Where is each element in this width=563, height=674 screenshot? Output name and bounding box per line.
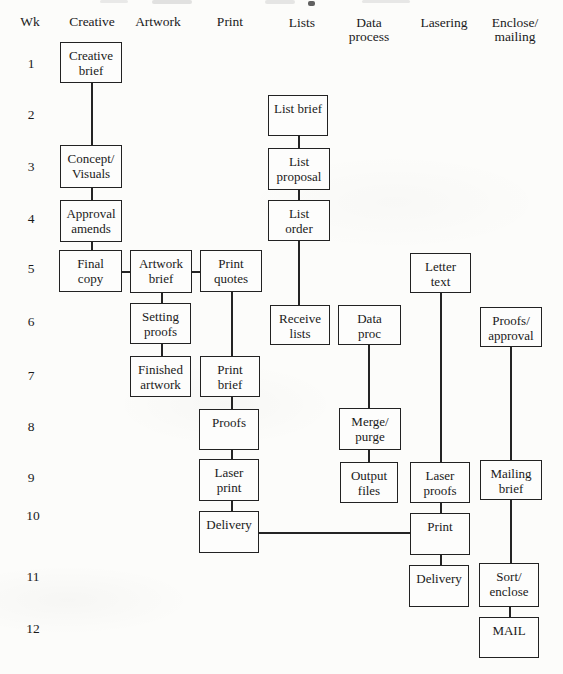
week-label-11: 11 [27, 569, 40, 585]
scan-artifact [152, 0, 192, 4]
connector-creative-brief-to-concept-visuals [91, 83, 93, 145]
text-line: Laser [411, 468, 469, 483]
text-line: order [269, 221, 329, 236]
text-line: Creative [61, 48, 121, 63]
scan-artifact [100, 0, 128, 3]
text-line: List [269, 206, 329, 221]
text-line: Print [217, 15, 243, 29]
text-line: Concept/ [61, 151, 121, 166]
text-line: mailing [492, 30, 539, 44]
text-line: Laser [200, 465, 258, 480]
text-line: proofs [411, 483, 469, 498]
node-list-order: Listorder [268, 200, 330, 241]
column-header-lists: Lists [289, 16, 315, 30]
text-line: files [341, 483, 397, 498]
node-approval-amends: Approvalamends [60, 200, 122, 242]
connector-data-proc-to-merge-purge [368, 345, 370, 408]
text-line: Visuals [61, 166, 121, 181]
text-line: Delivery [200, 517, 258, 532]
text-line: text [411, 274, 470, 289]
text-line: Delivery [410, 571, 468, 586]
connector-artwork-brief-to-setting-proofs [161, 293, 163, 303]
text-line: Creative [69, 15, 115, 29]
text-line: List [269, 154, 329, 169]
connector-approval-amends-to-final-copy [91, 242, 93, 250]
column-header-wk: Wk [20, 15, 40, 29]
connector-proofs-approval-to-mailing-brief [510, 347, 512, 460]
node-list-proposal: Listproposal [268, 148, 330, 190]
connector-print-brief-to-proofs [231, 397, 233, 409]
text-line: process [349, 30, 390, 44]
text-line: Data [339, 311, 400, 326]
node-laser-proofs: Laserproofs [410, 462, 470, 503]
node-final-copy: Finalcopy [59, 250, 122, 292]
week-label-3: 3 [28, 159, 35, 175]
text-line: Artwork [131, 256, 191, 271]
text-line: brief [201, 377, 259, 392]
week-label-10: 10 [26, 508, 40, 524]
text-line: Mailing [481, 466, 541, 481]
text-line: MAIL [480, 623, 538, 638]
text-line: Setting [131, 309, 190, 324]
text-line: Lasering [420, 16, 467, 30]
node-proofs-approval: Proofs/approval [480, 307, 542, 347]
connector-merge-purge-to-output-files [368, 450, 370, 462]
scan-artifact [265, 0, 295, 4]
connector-sort-enclose-to-mail [509, 607, 511, 617]
node-letter-text: Lettertext [410, 253, 471, 293]
connector-list-order-to-receive-lists [298, 241, 300, 305]
text-line: proofs [131, 324, 190, 339]
node-mailing-brief: Mailingbrief [480, 460, 542, 500]
text-line: Merge/ [340, 414, 400, 429]
node-delivery-print: Delivery [199, 511, 259, 553]
text-line: Print [201, 362, 259, 377]
connector-delivery-to-print-lasering [259, 532, 410, 534]
node-setting-proofs: Settingproofs [130, 303, 191, 344]
week-label-7: 7 [28, 368, 35, 384]
text-line: amends [61, 221, 121, 236]
text-line: Receive [271, 311, 329, 326]
text-line: Sort/ [480, 569, 538, 584]
text-line: copy [60, 271, 121, 286]
connector-mailing-brief-to-sort-enclose [510, 500, 512, 563]
column-header-data-process: Dataprocess [349, 16, 390, 44]
scanned-page: WkCreativeArtworkPrintListsDataprocessLa… [0, 0, 563, 674]
connector-setting-proofs-to-finished-artwork [161, 344, 163, 356]
text-line: Lists [289, 16, 315, 30]
text-line: Data [349, 16, 390, 30]
text-line: enclose [480, 584, 538, 599]
node-data-proc: Dataproc [338, 305, 401, 345]
text-line: Proofs/ [481, 313, 541, 328]
text-line: print [200, 480, 258, 495]
week-label-6: 6 [28, 314, 35, 330]
node-delivery-lasering: Delivery [409, 565, 469, 607]
text-line: Final [60, 256, 121, 271]
text-line: Wk [20, 15, 40, 29]
text-line: purge [340, 429, 400, 444]
text-line: brief [481, 481, 541, 496]
column-header-enclose-mailing: Enclose/mailing [492, 16, 539, 44]
week-label-2: 2 [28, 107, 35, 123]
text-line: proposal [269, 169, 329, 184]
node-finished-artwork: Finishedartwork [130, 356, 191, 397]
node-print-quotes: Printquotes [200, 250, 262, 292]
text-line: Print [411, 519, 469, 534]
text-line: approval [481, 328, 541, 343]
node-receive-lists: Receivelists [270, 305, 330, 345]
week-label-5: 5 [28, 261, 35, 277]
text-line: Enclose/ [492, 16, 539, 30]
node-output-files: Outputfiles [340, 462, 398, 503]
text-line: brief [131, 271, 191, 286]
connector-print-quotes-to-print-brief [231, 292, 233, 356]
connector-laser-print-to-delivery [231, 501, 233, 511]
text-line: proc [339, 326, 400, 341]
text-line: Artwork [135, 15, 181, 29]
week-label-9: 9 [28, 470, 35, 486]
week-label-8: 8 [28, 419, 35, 435]
scan-artifact [308, 1, 315, 6]
connector-letter-text-to-laser-proofs [440, 293, 442, 462]
connector-list-brief-to-list-proposal [298, 136, 300, 148]
text-line: brief [61, 63, 121, 78]
connector-laser-proofs-to-print-lasering [440, 503, 442, 513]
node-print-lasering: Print [410, 513, 470, 555]
